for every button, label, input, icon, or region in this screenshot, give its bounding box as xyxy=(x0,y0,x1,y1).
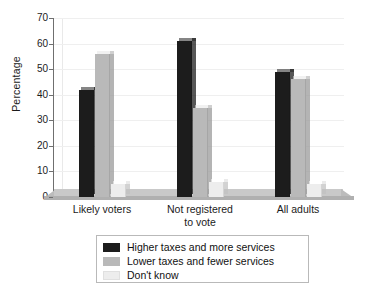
bar xyxy=(95,54,110,197)
y-tick-mark-0 xyxy=(49,197,53,198)
plot-wrapper: Percentage 010203040506070 xyxy=(0,0,367,215)
bar-face xyxy=(95,54,110,197)
legend-item-3: Don't know xyxy=(103,268,302,282)
y-tick-label-10: 10 xyxy=(37,166,48,176)
legend-swatch xyxy=(103,257,120,266)
legend-swatch xyxy=(103,243,120,252)
bar-face xyxy=(79,90,94,197)
x-axis-tick-labels: Likely votersNot registeredto voteAll ad… xyxy=(0,203,367,237)
y-tick-mark-20 xyxy=(49,146,53,147)
y-tick-mark-50 xyxy=(49,69,53,70)
y-tick-label-60: 60 xyxy=(37,39,48,49)
y-tick-mark-60 xyxy=(49,44,53,45)
bar-top-3d xyxy=(113,181,130,184)
legend-label: Lower taxes and fewer services xyxy=(127,256,274,267)
bar-face xyxy=(209,182,224,197)
bar xyxy=(291,79,306,197)
legend-swatch xyxy=(103,271,120,280)
bar xyxy=(193,108,208,198)
bar-top-3d xyxy=(195,105,212,108)
bar-group-3 xyxy=(275,18,327,197)
bar-side-3d xyxy=(306,76,310,194)
y-tick-label-40: 40 xyxy=(37,90,48,100)
legend-label: Higher taxes and more services xyxy=(127,242,275,253)
legend-item-1: Higher taxes and more services xyxy=(103,240,302,254)
bar xyxy=(79,90,94,197)
bar-side-3d xyxy=(110,51,114,194)
bar-top-3d xyxy=(97,51,114,54)
y-tick-mark-30 xyxy=(49,120,53,121)
bar-face xyxy=(291,79,306,197)
legend-item-2: Lower taxes and fewer services xyxy=(103,254,302,268)
bar-face xyxy=(307,184,322,197)
y-tick-label-70: 70 xyxy=(37,13,48,23)
bar-top-3d xyxy=(277,69,294,72)
bar-top-3d xyxy=(179,38,196,41)
bar xyxy=(275,72,290,197)
legend-label: Don't know xyxy=(127,270,179,281)
y-tick-mark-40 xyxy=(49,95,53,96)
bar xyxy=(177,41,192,197)
bar-face xyxy=(111,184,126,197)
bar-group-2 xyxy=(177,18,229,197)
bar-top-3d xyxy=(293,76,310,79)
chart-legend: Higher taxes and more servicesLower taxe… xyxy=(96,235,309,283)
y-tick-label-20: 20 xyxy=(37,141,48,151)
y-tick-mark-10 xyxy=(49,171,53,172)
bar xyxy=(111,184,126,197)
bar-top-3d xyxy=(309,181,326,184)
bar-chart: Percentage 010203040506070 Likely voters… xyxy=(0,0,367,293)
x-tick-label-3: All adults xyxy=(238,203,358,216)
bar-groups xyxy=(54,18,344,197)
y-tick-label-50: 50 xyxy=(37,64,48,74)
bar xyxy=(307,184,322,197)
bar-face xyxy=(193,108,208,198)
bar xyxy=(209,182,224,197)
y-axis-tick-labels: 010203040506070 xyxy=(26,0,48,215)
y-tick-mark-70 xyxy=(49,18,53,19)
y-axis-title: Percentage xyxy=(10,44,22,124)
y-tick-label-30: 30 xyxy=(37,115,48,125)
bar-top-3d xyxy=(211,179,228,182)
bar-face xyxy=(177,41,192,197)
bar-face xyxy=(275,72,290,197)
bar-group-1 xyxy=(79,18,131,197)
